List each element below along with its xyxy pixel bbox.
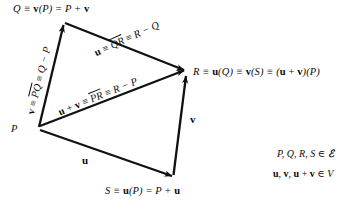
- legend-points-list: P, Q, R, S: [277, 148, 315, 159]
- label-point-P: P: [11, 124, 18, 135]
- label-R-middle-1: (Q) ≡: [218, 66, 246, 77]
- arrow-u-plus-v-diagonal: [40, 71, 184, 127]
- legend-vectors-member-symbol: ∈: [315, 168, 327, 179]
- legend-plus: +: [299, 168, 310, 179]
- label-R-plus: +: [286, 66, 297, 77]
- label-Q-middle: (P) = P +: [39, 3, 84, 14]
- label-point-Q: Q ≡ v(P) = P + v: [13, 4, 89, 15]
- label-edge-u-short: u: [82, 155, 88, 166]
- label-R-prefix: R ≡: [193, 66, 212, 77]
- legend-vectors-line: u, v, u + v ∈ V: [273, 168, 333, 179]
- legend-affine-space-symbol: ℰ: [328, 148, 334, 159]
- vector-addition-figure: Q ≡ v(P) = P + v R ≡ u(Q) ≡ v(S) ≡ (u + …: [0, 0, 351, 206]
- arrow-v-right: [174, 76, 187, 175]
- label-S-prefix: S ≡: [105, 185, 123, 196]
- legend-vector-space-symbol: V: [327, 168, 333, 179]
- legend-points-line: P, Q, R, S ∈ ℰ: [277, 148, 334, 159]
- label-R-suffix: )(P): [303, 66, 320, 77]
- legend-points-member-symbol: ∈: [315, 148, 327, 159]
- label-S-middle: (P) = P +: [129, 185, 174, 196]
- label-point-S: S ≡ u(P) = P + u: [105, 186, 180, 197]
- label-R-middle-2: (S) ≡ (: [251, 66, 280, 77]
- label-Q-vector-v2: v: [84, 3, 89, 14]
- label-Q-prefix: Q ≡: [13, 3, 33, 14]
- label-S-vector-u2: u: [174, 185, 180, 196]
- arrow-u-bottom: [40, 130, 172, 176]
- label-point-R: R ≡ u(Q) ≡ v(S) ≡ (u + v)(P): [193, 67, 320, 78]
- label-edge-v-short: v: [190, 114, 196, 125]
- arrow-u-top: [65, 23, 184, 70]
